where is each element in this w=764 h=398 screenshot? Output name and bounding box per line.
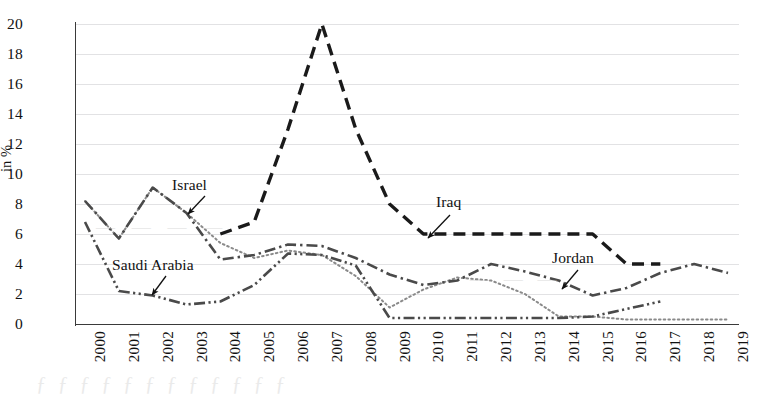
series-line-iraq <box>220 24 660 264</box>
annotation-iraq: Iraq <box>436 193 461 211</box>
annotation-israel: Israel <box>172 176 207 194</box>
annotation-arrow-israel <box>188 196 205 214</box>
series-layer <box>0 0 764 398</box>
series-line-jordan <box>85 188 728 296</box>
series-line-israel <box>85 188 728 320</box>
line-chart-figure: in % 02468101214161820 20002001200220032… <box>0 0 764 398</box>
annotation-saudi-arabia: Saudi Arabia <box>112 256 194 274</box>
annotation-jordan: Jordan <box>552 249 594 267</box>
annotation-arrow-saudi <box>152 276 166 295</box>
